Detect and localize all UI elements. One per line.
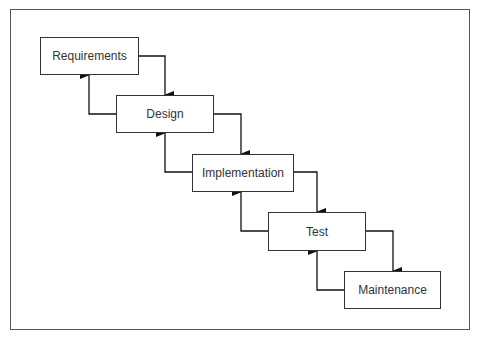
stage-test: Test [268, 212, 366, 251]
stage-requirements: Requirements [40, 37, 139, 75]
stage-label: Design [146, 107, 183, 121]
stage-design: Design [116, 95, 214, 133]
stage-label: Requirements [52, 49, 127, 63]
stage-label: Implementation [202, 166, 284, 180]
stage-implementation: Implementation [192, 154, 294, 192]
arrow-test-to-implementation [241, 192, 268, 231]
arrow-design-to-implementation [214, 114, 241, 154]
arrow-implementation-to-design [165, 133, 192, 172]
arrow-requirements-to-design [139, 56, 165, 95]
arrow-maintenance-to-test [317, 251, 344, 290]
arrow-design-to-requirements [89, 75, 116, 114]
arrow-implementation-to-test [294, 172, 317, 212]
stage-label: Test [306, 225, 328, 239]
stage-maintenance: Maintenance [344, 271, 441, 309]
stage-label: Maintenance [358, 283, 427, 297]
arrow-test-to-maintenance [366, 231, 393, 271]
